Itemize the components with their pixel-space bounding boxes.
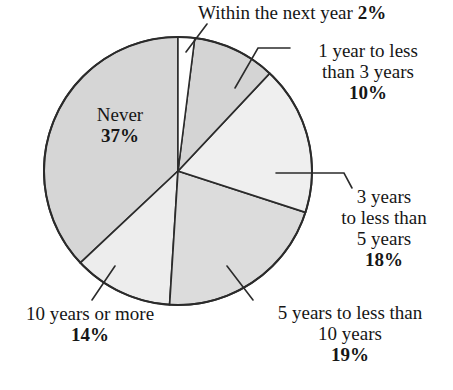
slice-label-three-to-five-years: 3 years to less than 5 years 18% [318,186,450,270]
slice-label-percent: 14% [71,324,109,345]
slice-label-line1: Never [72,104,168,125]
pie-slices [44,37,312,305]
slice-label-percent: 19% [331,344,369,365]
slice-label-within-next-year: Within the next year 2% [198,2,450,23]
slice-label-line1: 1 year to less [288,40,448,61]
slice-label-line2: 10 years [248,323,452,344]
slice-label-text: Within the next year [198,2,353,23]
pie-chart-figure: Within the next year 2% 1 year to less t… [0,0,453,390]
slice-label-one-to-three-years: 1 year to less than 3 years 10% [288,40,448,103]
slice-label-percent: 10% [349,82,387,103]
slice-label-percent: 18% [365,249,403,270]
slice-label-percent: 2% [358,2,387,23]
slice-label-line1: 10 years or more [2,303,178,324]
slice-label-line2: to less than [318,207,450,228]
slice-label-line1: 5 years to less than [248,302,452,323]
slice-label-line3: 5 years [318,228,450,249]
slice-label-five-to-ten-years: 5 years to less than 10 years 19% [248,302,452,365]
slice-label-never: Never 37% [72,104,168,146]
slice-label-ten-years-or-more: 10 years or more 14% [2,303,178,345]
slice-label-line1: 3 years [318,186,450,207]
slice-label-line2: than 3 years [288,61,448,82]
slice-label-percent: 37% [101,125,139,146]
